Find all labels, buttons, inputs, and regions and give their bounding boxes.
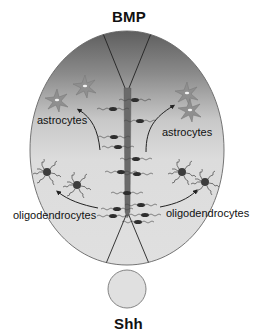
bmp-label: BMP — [112, 9, 146, 24]
shh-label: Shh — [114, 316, 143, 331]
oligodendrocytes-label-right: oligodendrocytes — [166, 208, 249, 219]
astrocytes-label-left: astrocytes — [37, 115, 87, 126]
astrocytes-label-right: astrocytes — [162, 127, 212, 138]
shh-source-circle — [108, 270, 146, 308]
neural-tube-diagram — [0, 0, 267, 336]
oligodendrocytes-label-left: oligodendrocytes — [13, 210, 96, 221]
central-canal — [124, 88, 131, 218]
